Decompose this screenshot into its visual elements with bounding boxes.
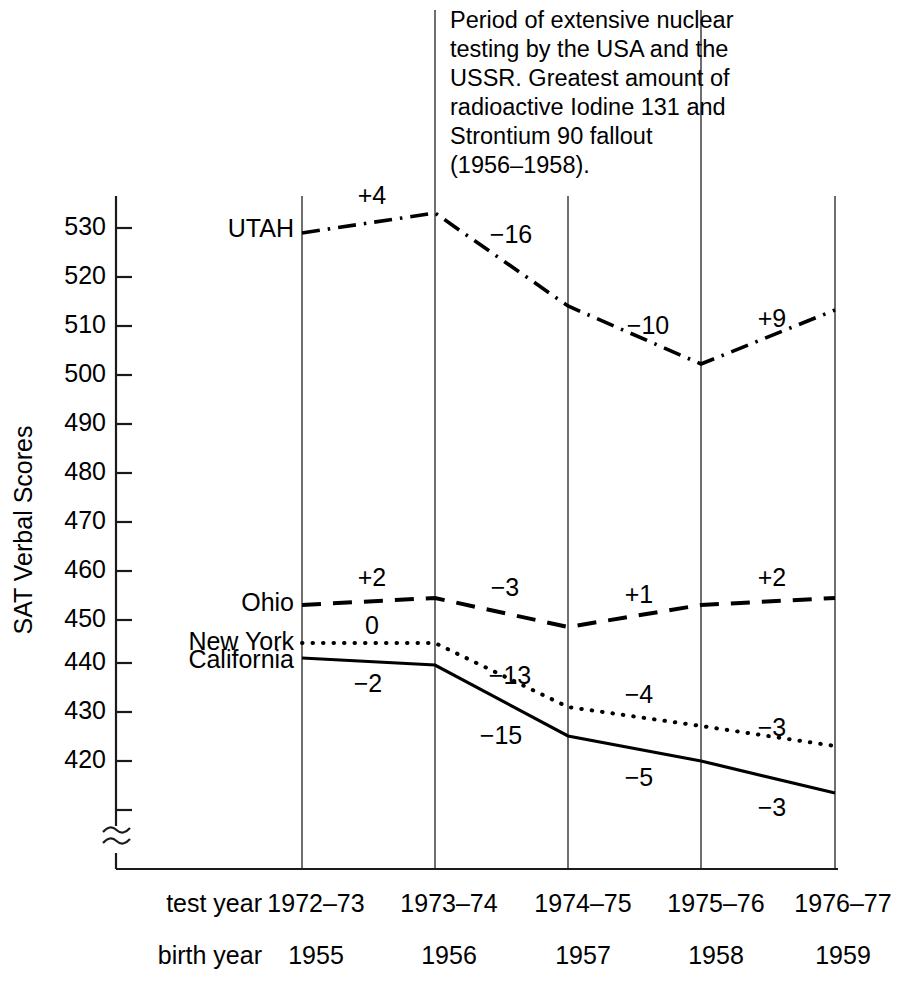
xtick-label-test-year: 1975–76	[667, 889, 764, 917]
ytick-label: 520	[64, 261, 106, 289]
axis-break-icon	[103, 838, 130, 843]
ytick-label: 420	[64, 745, 106, 773]
ytick-label: 430	[64, 696, 106, 724]
series-label-california: California	[188, 645, 294, 673]
delta-label-new-york: 0	[365, 611, 379, 639]
annotation-line: testing by the USA and the	[450, 36, 728, 62]
delta-label-new-york: −13	[489, 661, 531, 689]
delta-label-ohio: −3	[491, 573, 520, 601]
ytick-label: 500	[64, 359, 106, 387]
delta-label-california: −15	[480, 721, 522, 749]
delta-label-ohio: +2	[758, 563, 787, 591]
delta-label-california: −2	[354, 669, 383, 697]
xtick-label-test-year: 1974–75	[534, 889, 631, 917]
delta-label-utah: −16	[490, 220, 532, 248]
xtick-label-test-year: 1976–77	[794, 889, 891, 917]
series-label-ohio: Ohio	[241, 588, 294, 616]
ytick-label: 470	[64, 506, 106, 534]
xtick-label-test-year: 1972–73	[267, 889, 364, 917]
series-utah: UTAH +4 −16 −10 +9	[228, 181, 835, 364]
y-axis-ticks	[116, 228, 132, 810]
delta-label-ohio: +2	[358, 563, 387, 591]
delta-label-new-york: −3	[758, 713, 787, 741]
annotation-line: Strontium 90 fallout	[450, 123, 653, 149]
y-axis-title: SAT Verbal Scores	[9, 426, 37, 635]
ytick-label: 510	[64, 310, 106, 338]
annotation-line: USSR. Greatest amount of	[450, 65, 730, 91]
ytick-label: 490	[64, 408, 106, 436]
sat-verbal-scores-chart: 530 520 510 500 490 480 470 460 450 440 …	[0, 0, 903, 987]
delta-label-california: −3	[758, 793, 787, 821]
annotation-line: (1956–1958).	[450, 152, 590, 178]
y-axis-tick-labels: 530 520 510 500 490 480 470 460 450 440 …	[64, 212, 106, 773]
xtick-label-birth-year: 1957	[555, 941, 611, 969]
series-label-utah: UTAH	[228, 214, 294, 242]
x-axis-row-label-test-year: test year	[166, 889, 262, 917]
x-axis-row-test-year: test year 1972–73 1973–74 1974–75 1975–7…	[166, 889, 892, 917]
delta-label-california: −5	[625, 763, 654, 791]
delta-label-ohio: +1	[625, 580, 654, 608]
ytick-label: 440	[64, 647, 106, 675]
xtick-label-birth-year: 1955	[288, 941, 344, 969]
annotation-line: radioactive Iodine 131 and	[450, 94, 726, 120]
ytick-label: 460	[64, 555, 106, 583]
ytick-label: 450	[64, 604, 106, 632]
xtick-label-birth-year: 1956	[421, 941, 477, 969]
x-axis-row-label-birth-year: birth year	[158, 941, 262, 969]
chart-canvas: 530 520 510 500 490 480 470 460 450 440 …	[0, 0, 903, 987]
series-ohio: Ohio +2 −3 +1 +2	[241, 563, 835, 627]
ytick-label: 480	[64, 457, 106, 485]
delta-label-utah: +4	[358, 181, 387, 209]
xtick-label-birth-year: 1958	[688, 941, 744, 969]
delta-label-utah: +9	[758, 304, 787, 332]
xtick-label-test-year: 1973–74	[400, 889, 497, 917]
axis-break-icon-2	[103, 827, 130, 832]
annotation-line: Period of extensive nuclear	[450, 7, 734, 33]
delta-label-utah: −10	[627, 311, 669, 339]
annotation-note: Period of extensive nuclear testing by t…	[450, 7, 734, 178]
delta-label-new-york: −4	[625, 680, 654, 708]
xtick-label-birth-year: 1959	[815, 941, 871, 969]
x-axis-row-birth-year: birth year 1955 1956 1957 1958 1959	[158, 941, 871, 969]
ytick-label: 530	[64, 212, 106, 240]
